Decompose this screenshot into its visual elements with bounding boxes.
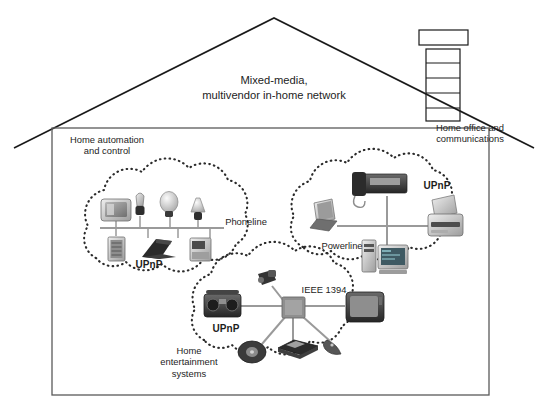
diagram-graphics bbox=[0, 0, 539, 414]
diagram-canvas: Mixed-media, multivendor in-home network… bbox=[0, 0, 539, 414]
standard-label-upnp-automation: UPnP bbox=[123, 259, 175, 271]
protocol-label-phoneline: Phoneline bbox=[215, 216, 277, 227]
device-control-panel bbox=[108, 237, 125, 261]
zone-label-home-entertainment: Home entertainment systems bbox=[141, 345, 237, 379]
chimney bbox=[419, 30, 468, 121]
protocol-label-powerline: Powerline bbox=[311, 240, 373, 251]
house-wall bbox=[52, 128, 489, 395]
device-television bbox=[346, 292, 384, 322]
device-wall-display bbox=[101, 199, 131, 221]
standard-label-upnp-office: UPnP bbox=[411, 180, 463, 192]
device-lamp-small bbox=[136, 193, 145, 215]
protocol-label-ieee-1394: IEEE 1394 bbox=[288, 284, 360, 295]
device-stereo-boombox bbox=[204, 290, 241, 317]
zone-label-home-automation: Home automation and control bbox=[45, 134, 169, 157]
device-cd-disc bbox=[238, 341, 266, 363]
zone-label-home-office: Home office and communications bbox=[408, 122, 532, 145]
diagram-title-line2: multivendor in-home network bbox=[174, 89, 374, 103]
diagram-title-line1: Mixed-media, bbox=[194, 74, 354, 88]
device-appliance bbox=[190, 238, 211, 261]
standard-label-upnp-entertainment: UPnP bbox=[200, 323, 252, 335]
